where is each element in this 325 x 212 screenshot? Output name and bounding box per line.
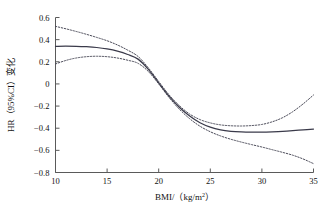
x-tick-label: 25 <box>206 176 215 186</box>
y-tick-label: 0.6 <box>39 13 50 23</box>
y-tick-label: −0.4 <box>34 123 50 133</box>
x-tick-labels: 101520253035 <box>51 176 318 186</box>
y-tick-labels: 0.60.40.20−0.2−0.4−0.6−0.8 <box>34 13 50 178</box>
tick-marks <box>56 18 314 173</box>
x-tick-label: 15 <box>103 176 112 186</box>
chart-container: 101520253035 0.60.40.20−0.2−0.4−0.6−0.8 … <box>0 0 325 212</box>
axes <box>56 18 314 173</box>
x-axis-title: BMI/（kg/m2） <box>155 192 214 202</box>
curve-series <box>56 26 314 163</box>
x-tick-label: 35 <box>309 176 318 186</box>
y-tick-label: 0.4 <box>39 35 50 45</box>
y-tick-label: 0.2 <box>39 57 50 67</box>
x-tick-label: 30 <box>258 176 267 186</box>
x-tick-label: 10 <box>51 176 60 186</box>
spline-hr-chart: 101520253035 0.60.40.20−0.2−0.4−0.6−0.8 … <box>0 0 325 212</box>
hr-estimate-curve <box>56 46 314 132</box>
y-tick-label: −0.2 <box>34 101 49 111</box>
y-tick-label: −0.6 <box>34 145 49 155</box>
x-tick-label: 20 <box>154 176 163 186</box>
y-axis-title: HR（95%CI）变化 <box>5 58 16 132</box>
y-tick-label: 0 <box>45 79 49 89</box>
y-tick-label: −0.8 <box>34 168 49 178</box>
